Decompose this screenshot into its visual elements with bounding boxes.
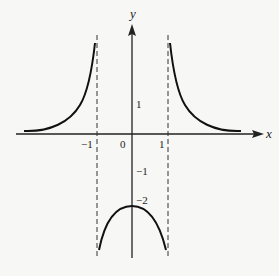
y-tick-pos1: 1 [136,98,142,110]
x-tick-pos1: 1 [159,138,165,150]
function-graph: x y 0 −1 1 1 −1 −2 [0,0,279,276]
right-branch-curve [170,43,241,131]
y-tick-neg1: −1 [136,165,148,177]
origin-label: 0 [120,138,126,150]
y-axis-label: y [128,6,136,21]
x-axis-label: x [265,126,272,141]
left-branch-curve [24,43,95,131]
x-tick-neg1: −1 [81,138,93,150]
y-tick-neg2: −2 [136,194,148,206]
